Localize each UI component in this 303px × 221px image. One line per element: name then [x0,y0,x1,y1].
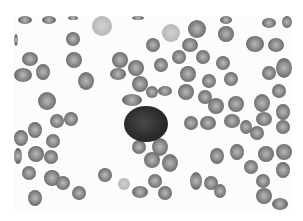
red-blood-cell [196,50,210,64]
pale-red-blood-cell [92,16,112,36]
red-blood-cell [262,66,276,80]
red-blood-cell [110,68,126,80]
red-blood-cell [42,16,56,24]
red-blood-cell [200,116,216,130]
red-blood-cell [276,104,290,120]
red-blood-cell [158,86,172,96]
red-blood-cell [14,148,22,164]
red-blood-cell [132,186,148,198]
red-blood-cell [146,38,160,52]
red-blood-cell [262,18,276,28]
red-blood-cell [66,52,82,68]
red-blood-cell [158,186,172,200]
red-blood-cell [210,148,224,164]
red-blood-cell [276,162,290,178]
red-blood-cell [208,98,224,114]
red-blood-cell [256,112,272,126]
red-blood-cell [28,122,42,138]
red-blood-cell [144,152,160,168]
red-blood-cell [22,52,38,66]
red-blood-cell [276,58,292,78]
red-blood-cell [28,190,42,206]
red-blood-cell [250,126,264,140]
micrograph [0,0,303,221]
red-blood-cell [224,114,240,128]
red-blood-cell [14,68,32,82]
red-blood-cell [46,134,60,148]
red-blood-cell [56,176,70,190]
red-blood-cell [184,116,198,130]
red-blood-cell [214,184,226,198]
red-blood-cell [50,114,64,128]
red-blood-cell [254,94,270,112]
red-blood-cell [122,94,142,106]
red-blood-cell [128,60,144,76]
red-blood-cell [220,16,232,24]
red-blood-cell [268,38,284,52]
red-blood-cell [14,34,18,46]
red-blood-cell [256,174,270,188]
red-blood-cell [72,186,86,200]
red-blood-cell [230,144,244,160]
red-blood-cell [38,92,56,110]
red-blood-cell [172,50,186,64]
red-blood-cell [188,20,206,38]
red-blood-cell [276,144,292,160]
red-blood-cell [216,56,230,70]
red-blood-cell [272,198,288,210]
red-blood-cell [28,146,44,162]
red-blood-cell [162,154,178,172]
red-blood-cell [146,86,158,98]
red-blood-cell [180,66,196,82]
red-blood-cell [246,36,264,52]
red-blood-cell [112,52,128,68]
red-blood-cell [282,16,292,28]
red-blood-cell [14,130,28,146]
pale-red-blood-cell [118,178,130,190]
red-blood-cell [44,150,58,164]
red-blood-cell [224,72,238,86]
red-blood-cell [272,84,286,98]
red-blood-cell [244,160,258,174]
red-blood-cell [218,26,234,42]
red-blood-cell [78,72,94,90]
red-blood-cell [154,58,168,72]
red-blood-cell [276,120,290,134]
red-blood-cell [148,174,162,188]
red-blood-cell [22,166,36,180]
red-blood-cell [178,84,194,100]
red-blood-cell [66,32,80,46]
red-blood-cell [36,64,50,80]
red-blood-cell [18,16,32,24]
red-blood-cell [98,168,112,182]
red-blood-cell [68,16,78,20]
pale-red-blood-cell [162,24,180,42]
red-blood-cell [64,112,78,126]
red-blood-cell [258,146,274,162]
red-blood-cell [132,16,144,20]
red-blood-cell [256,188,272,204]
lymphocyte [124,106,168,142]
red-blood-cell [228,96,244,112]
red-blood-cell [182,38,198,52]
red-blood-cell [132,140,146,154]
red-blood-cell [190,172,202,190]
red-blood-cell [202,74,216,88]
